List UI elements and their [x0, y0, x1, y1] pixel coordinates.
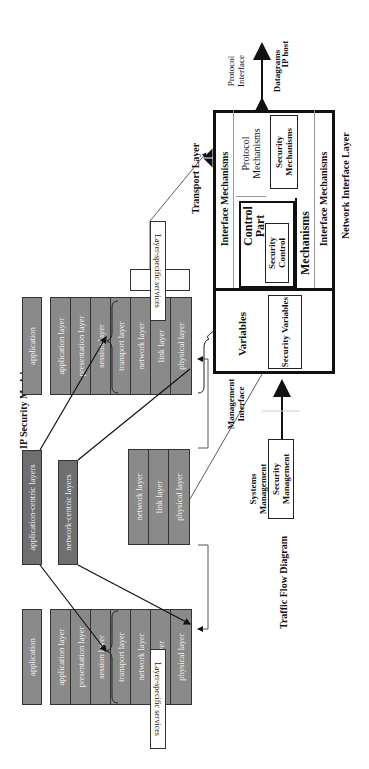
systems-management-label: Systems Management	[248, 454, 268, 524]
diagram-canvas: IP Security Model Traffic Flow Diagram a…	[0, 0, 369, 769]
management-interface-label: Management Interface	[226, 369, 246, 439]
right-upper-brace	[107, 301, 118, 393]
network-interface-layer-label: Network Interface Layer	[340, 132, 351, 239]
left-upper-brace	[107, 611, 118, 703]
control-part-label: Control Part	[240, 203, 268, 249]
interface-mechanisms-bottom: Interface Mechanisms	[314, 110, 332, 288]
variables-divider	[213, 288, 335, 291]
security-control-box: Security Control	[265, 223, 289, 283]
interface-mechanisms-top: Interface Mechanisms	[216, 110, 234, 288]
security-variables-box: Security Variables	[268, 295, 302, 369]
ip-host-label: IP host	[280, 39, 290, 69]
security-mechanisms-box: Security Mechanisms	[270, 115, 298, 189]
transport-layer-label: Transport Layer	[190, 143, 201, 214]
variables-label: Variables	[232, 299, 252, 369]
mechanisms-label: Mechanisms	[295, 198, 313, 288]
security-management-box: Security Management	[268, 439, 294, 519]
protocol-interface-label: Protocol Interface	[226, 41, 246, 101]
protocol-mechanisms-label: Protocol Mechanisms	[236, 111, 266, 197]
